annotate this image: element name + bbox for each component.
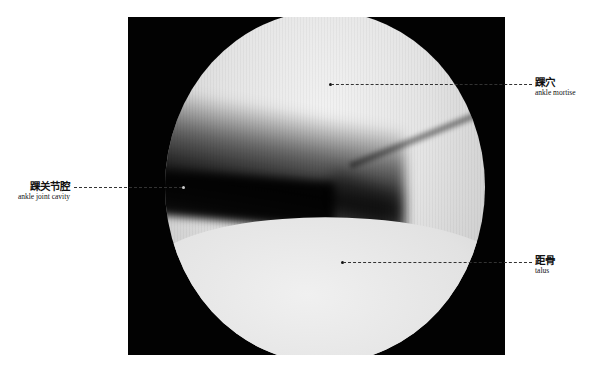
talus-dome-surface [165,203,485,355]
talus-label-en: talus [535,267,555,275]
arthroscope-field-of-view [165,17,485,355]
ankle-joint-cavity-leader-line [74,187,182,188]
ankle-mortise-label: 踝穴 ankle mortise [535,77,576,97]
ankle-mortise-label-zh: 踝穴 [535,77,576,89]
ankle-joint-cavity-label: 踝关节腔 ankle joint cavity [14,181,70,201]
ankle-mortise-label-en: ankle mortise [535,89,576,97]
talus-label-zh: 距骨 [535,255,555,267]
talus-label: 距骨 talus [535,255,555,275]
ankle-mortise-leader-line [331,84,532,85]
ankle-joint-cavity-label-zh: 踝关节腔 [14,181,70,193]
ankle-joint-cavity-pointer-dot [182,186,185,189]
talus-leader-line [343,262,532,263]
ankle-joint-cavity-label-en: ankle joint cavity [14,193,70,201]
